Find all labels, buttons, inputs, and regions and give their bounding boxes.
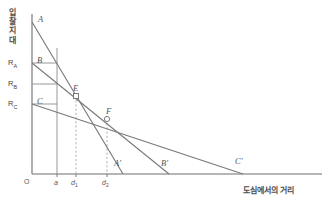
curve-label-b-prime: B′: [161, 158, 168, 168]
x-tick-d1: d1: [71, 179, 78, 188]
curve-label-c-prime: C′: [235, 156, 243, 166]
x-tick-d2-sub: 2: [106, 182, 109, 188]
x-tick-a: a: [54, 179, 58, 186]
y-tick-rb-sub: B: [13, 84, 17, 90]
curve-label-b: B: [37, 55, 42, 65]
y-tick-rb: RB: [8, 79, 17, 90]
y-tick-ra: RA: [8, 58, 17, 69]
curve-b: [32, 63, 169, 174]
curve-label-a-prime: A′: [114, 158, 121, 168]
origin-label-text: O: [24, 178, 29, 185]
curve-label-c: C: [37, 96, 43, 106]
x-tick-d1-sub: 1: [75, 182, 78, 188]
intersection-marker-f: [104, 116, 109, 121]
bid-rent-figure: 입 찰 지 대 RA RB RC: [0, 0, 331, 209]
y-tick-rc: RC: [8, 99, 17, 110]
origin-label: O: [24, 178, 29, 185]
intersection-label-e: E: [73, 83, 78, 93]
intersection-label-f: F: [106, 106, 111, 116]
x-tick-d2: d2: [102, 179, 109, 188]
curve-label-a: A: [38, 14, 43, 24]
x-tick-a-text: a: [54, 179, 58, 186]
intersection-marker-e: [74, 94, 79, 99]
curve-c: [32, 104, 243, 174]
y-tick-rc-sub: C: [13, 104, 17, 110]
plot-canvas: [0, 0, 331, 209]
y-tick-ra-sub: A: [13, 63, 17, 69]
x-axis-title: 도심에서의 거리: [243, 184, 294, 195]
